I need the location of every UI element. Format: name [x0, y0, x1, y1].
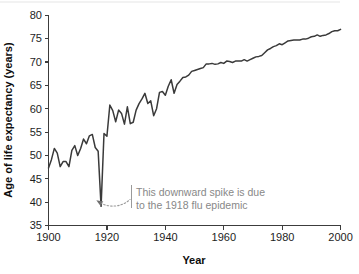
y-tick-label: 40 — [30, 196, 42, 208]
x-axis-tick-labels: 1900 1920 1940 1960 1980 2000 — [36, 231, 353, 243]
x-tick-label: 1940 — [153, 231, 177, 243]
annotation-line-2: to the 1918 flu epidemic — [136, 199, 248, 211]
x-tick-label: 2000 — [328, 231, 352, 243]
x-axis-tick-marks — [49, 226, 341, 230]
y-tick-label: 55 — [30, 126, 42, 138]
annotation-line-1: This downward spike is due — [136, 186, 265, 198]
annotation-leader-curve — [101, 200, 131, 207]
x-tick-label: 1920 — [95, 231, 119, 243]
y-axis-tick-labels: 35 40 45 50 55 60 65 70 75 80 — [30, 9, 42, 231]
y-axis-tick-marks — [45, 15, 49, 225]
y-tick-label: 80 — [30, 9, 42, 21]
chart-canvas: 35 40 45 50 55 60 65 70 75 80 1900 1920 … — [0, 0, 359, 274]
x-axis-title: Year — [182, 254, 206, 266]
y-axis-title: Age of life expectancy (years) — [2, 42, 14, 198]
y-tick-label: 35 — [30, 219, 42, 231]
y-tick-label: 65 — [30, 79, 42, 91]
life-expectancy-chart-figure: 35 40 45 50 55 60 65 70 75 80 1900 1920 … — [0, 0, 359, 274]
scan-artifact-strip — [0, 1, 340, 3]
annotation-arrowhead-icon — [96, 200, 103, 205]
y-tick-label: 50 — [30, 149, 42, 161]
y-tick-label: 70 — [30, 56, 42, 68]
y-tick-label: 75 — [30, 32, 42, 44]
y-tick-label: 60 — [30, 103, 42, 115]
y-tick-label: 45 — [30, 173, 42, 185]
life-expectancy-line — [49, 29, 341, 206]
x-tick-label: 1980 — [270, 231, 294, 243]
x-tick-label: 1900 — [36, 231, 60, 243]
x-tick-label: 1960 — [212, 231, 236, 243]
